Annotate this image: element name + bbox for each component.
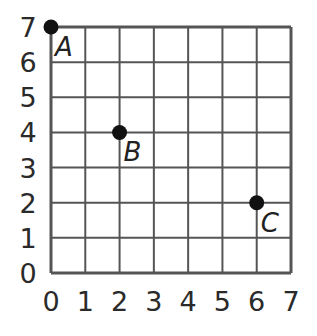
y-axis-tick-labels: 01234567 — [19, 12, 36, 289]
x-tick-label: 7 — [282, 286, 299, 317]
point-c-label: C — [261, 208, 280, 238]
x-tick-label: 3 — [145, 286, 162, 317]
y-tick-label: 7 — [19, 12, 36, 43]
y-tick-label: 0 — [19, 258, 36, 289]
x-tick-label: 6 — [248, 286, 265, 317]
point-b-label: B — [124, 137, 142, 167]
coordinate-grid-chart: 01234567 01234567 ABC — [0, 0, 317, 336]
y-tick-label: 6 — [19, 47, 36, 78]
y-tick-label: 5 — [19, 82, 36, 113]
grid-lines — [51, 27, 291, 273]
x-tick-label: 4 — [180, 286, 197, 317]
x-tick-label: 0 — [42, 286, 59, 317]
point-a-label: A — [53, 32, 73, 62]
y-tick-label: 4 — [19, 117, 36, 148]
y-tick-label: 3 — [19, 153, 36, 184]
x-tick-label: 5 — [214, 286, 231, 317]
y-tick-label: 1 — [19, 223, 36, 254]
x-tick-label: 1 — [77, 286, 94, 317]
x-axis-tick-labels: 01234567 — [42, 286, 299, 317]
data-points: ABC — [44, 20, 280, 238]
y-tick-label: 2 — [19, 188, 36, 219]
x-tick-label: 2 — [111, 286, 128, 317]
